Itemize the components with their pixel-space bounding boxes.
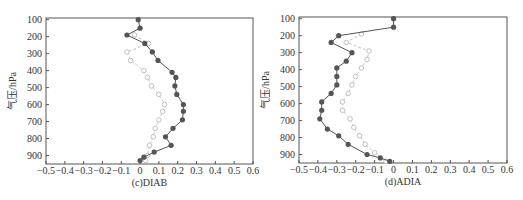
filled-circle-marker <box>334 74 339 79</box>
x-tick-label: 0.2 <box>171 165 184 176</box>
open-circle-marker <box>346 91 351 96</box>
x-tick-label: −0.4 <box>56 165 74 176</box>
y-tick-label: 500 <box>280 81 295 92</box>
y-tick-label: 800 <box>27 133 42 144</box>
x-tick-label: 0.4 <box>463 164 476 175</box>
y-tick-label: 400 <box>27 65 42 76</box>
filled-circle-marker <box>391 25 396 30</box>
open-circle-marker <box>142 68 147 73</box>
filled-circle-marker <box>334 65 339 70</box>
filled-circle-marker <box>319 99 324 104</box>
y-tick-label: 300 <box>27 48 42 59</box>
open-circle-marker <box>344 40 349 45</box>
open-circle-marker <box>149 84 154 89</box>
filled-circle-marker <box>174 92 179 97</box>
x-tick-label: 0.3 <box>444 164 457 175</box>
filled-circle-marker <box>336 33 341 38</box>
x-tick-label: −0.1 <box>112 165 130 176</box>
filled-circle-marker <box>181 102 186 107</box>
filled-circle-marker <box>387 159 392 164</box>
filled-circle-marker <box>170 126 175 131</box>
filled-circle-marker <box>169 70 174 75</box>
filled-circle-marker <box>173 75 178 80</box>
open-circle-marker <box>352 125 357 130</box>
filled-circle-marker <box>163 134 168 139</box>
x-tick-label: 0.1 <box>153 165 166 176</box>
filled-circle-marker <box>364 152 369 157</box>
filled-circle-marker <box>329 40 334 45</box>
open-circle-marker <box>340 100 345 105</box>
y-tick-label: 900 <box>27 150 42 161</box>
x-tick-label: −0.3 <box>75 165 93 176</box>
x-tick-label: 0.3 <box>190 165 203 176</box>
light-series-line <box>127 35 165 161</box>
open-circle-marker <box>357 134 362 139</box>
y-tick-label: 200 <box>27 31 42 42</box>
chart-caption: (d)ADIA <box>385 176 422 188</box>
filled-circle-marker <box>346 142 351 147</box>
chart-caption: (c)DIAB <box>132 177 168 189</box>
open-circle-marker <box>145 75 150 80</box>
x-tick-label: 0.1 <box>406 164 419 175</box>
x-tick-label: 0.5 <box>228 165 241 176</box>
y-tick-label: 600 <box>27 99 42 110</box>
y-tick-label: 400 <box>280 64 295 75</box>
dark-series-line <box>127 20 183 161</box>
filled-circle-marker <box>334 82 339 87</box>
y-tick-label: 900 <box>280 149 295 160</box>
x-tick-label: 0 <box>138 165 143 176</box>
open-circle-marker <box>151 135 156 140</box>
x-tick-label: 0.5 <box>482 164 495 175</box>
x-tick-label: −0.2 <box>347 164 365 175</box>
open-circle-marker <box>348 117 353 122</box>
x-tick-label: 0.6 <box>501 164 514 175</box>
filled-circle-marker <box>378 155 383 160</box>
open-circle-marker <box>157 118 162 123</box>
open-circle-marker <box>363 142 368 147</box>
filled-circle-marker <box>169 143 174 148</box>
open-circle-marker <box>160 109 165 114</box>
filled-circle-marker <box>172 83 177 88</box>
x-tick-label: −0.2 <box>93 165 111 176</box>
filled-circle-marker <box>137 26 142 31</box>
filled-circle-marker <box>137 158 142 163</box>
chart-panel-d: −0.5−0.4−0.3−0.2−0.100.10.20.30.40.50.61… <box>253 0 515 200</box>
open-circle-marker <box>367 49 372 54</box>
y-tick-label: 800 <box>280 132 295 143</box>
filled-circle-marker <box>391 16 396 21</box>
chart-panel-c: −0.5−0.4−0.3−0.2−0.100.10.20.30.40.50.61… <box>0 0 262 200</box>
open-circle-marker <box>353 74 358 79</box>
filled-circle-marker <box>336 133 341 138</box>
filled-circle-marker <box>349 50 354 55</box>
open-circle-marker <box>365 57 370 62</box>
y-tick-label: 700 <box>280 115 295 126</box>
y-tick-label: 200 <box>280 30 295 41</box>
filled-circle-marker <box>155 58 160 63</box>
open-circle-marker <box>153 126 158 131</box>
x-tick-label: 0.2 <box>425 164 438 175</box>
y-tick-label: 300 <box>280 47 295 58</box>
filled-circle-marker <box>180 117 185 122</box>
x-tick-label: −0.5 <box>290 164 308 175</box>
filled-circle-marker <box>317 116 322 121</box>
x-tick-label: 0.4 <box>209 165 222 176</box>
y-tick-label: 100 <box>280 13 295 24</box>
x-tick-label: −0.5 <box>37 165 55 176</box>
open-circle-marker <box>128 58 133 63</box>
y-tick-label: 600 <box>280 98 295 109</box>
x-tick-label: −0.3 <box>328 164 346 175</box>
chart-d-plot: −0.5−0.4−0.3−0.2−0.100.10.20.30.40.50.61… <box>253 0 523 200</box>
y-tick-label: 500 <box>27 82 42 93</box>
open-circle-marker <box>372 151 377 156</box>
x-tick-label: −0.4 <box>309 164 327 175</box>
plot-frame <box>46 18 253 164</box>
y-axis-label: 气压/hPa <box>259 71 271 109</box>
filled-circle-marker <box>325 126 330 131</box>
x-tick-label: 0 <box>391 164 396 175</box>
filled-circle-marker <box>124 32 129 37</box>
open-circle-marker <box>132 33 137 38</box>
open-circle-marker <box>359 66 364 71</box>
y-axis-label: 气压/hPa <box>6 72 18 110</box>
chart-c-plot: −0.5−0.4−0.3−0.2−0.100.10.20.30.40.50.61… <box>0 0 262 200</box>
filled-circle-marker <box>150 49 155 54</box>
